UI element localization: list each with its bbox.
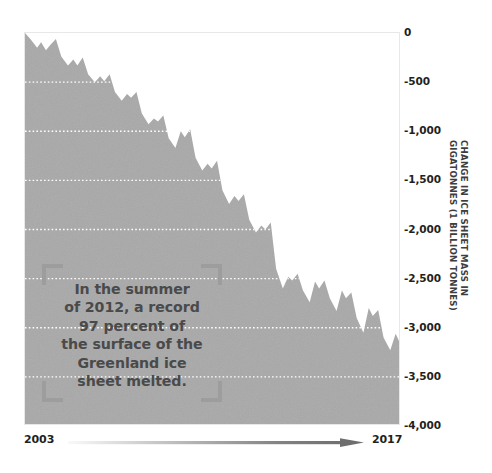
- y-axis-tick-2: -1,000: [404, 124, 441, 136]
- annotation-line-3: 97 percent of: [46, 317, 218, 335]
- y-axis-tick-3: -1,500: [404, 173, 441, 185]
- y-axis-tick-7: -3,500: [404, 370, 441, 382]
- ice-sheet-mass-chart: 0-500-1,000-1,500-2,000-2,500-3,000-3,50…: [0, 0, 492, 473]
- annotation-line-1: In the summer: [46, 280, 218, 298]
- y-axis-tick-1: -500: [404, 75, 430, 87]
- y-axis-tick-5: -2,500: [404, 272, 441, 284]
- x-axis: 2003 2017: [0, 430, 492, 452]
- annotation-line-2: of 2012, a record: [46, 298, 218, 316]
- annotation-line-5: Greenland ice: [46, 354, 218, 372]
- x-axis-start-label: 2003: [24, 433, 54, 446]
- y-axis-tick-0: 0: [404, 26, 411, 38]
- x-axis-end-label: 2017: [372, 433, 402, 446]
- y-axis-tick-labels: 0-500-1,000-1,500-2,000-2,500-3,000-3,50…: [404, 0, 466, 473]
- y-axis-tick-4: -2,000: [404, 223, 441, 235]
- annotation-line-4: the surface of the: [46, 335, 218, 353]
- y-axis-tick-6: -3,000: [404, 321, 441, 333]
- annotation-callout: In the summer of 2012, a record 97 perce…: [42, 264, 222, 402]
- x-axis-arrow-icon: [68, 438, 364, 447]
- annotation-line-6: sheet melted.: [46, 372, 218, 390]
- annotation-text: In the summer of 2012, a record 97 perce…: [46, 280, 218, 390]
